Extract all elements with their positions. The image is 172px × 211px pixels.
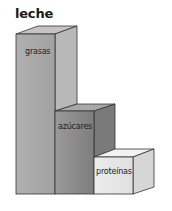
bar-proteinas-side: [133, 149, 154, 194]
bar-grasas-front: [16, 34, 55, 194]
bar-label-azucares: azúcares: [58, 122, 92, 131]
bar-grasas-side: [55, 26, 77, 111]
bar-azucares-side: [94, 104, 115, 157]
bar-label-grasas: grasas: [25, 47, 50, 56]
bar-label-proteinas: proteínas: [96, 167, 132, 176]
chart-canvas: [0, 0, 172, 211]
